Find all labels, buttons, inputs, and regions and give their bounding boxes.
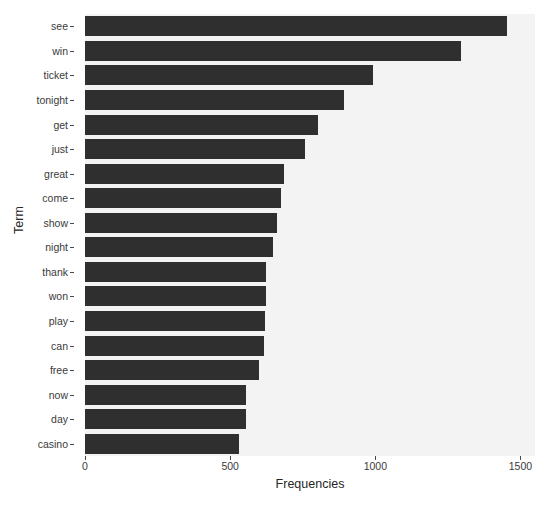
- y-tick-mark: [70, 100, 74, 101]
- y-tick-mark: [70, 346, 74, 347]
- bar: [85, 434, 239, 454]
- y-tick-mark: [70, 444, 74, 445]
- y-tick-label: tonight: [36, 90, 68, 110]
- bar: [85, 16, 507, 36]
- bar-row: [85, 41, 535, 61]
- bar-row: [85, 360, 535, 380]
- y-tick-label: won: [49, 286, 68, 306]
- bar: [85, 90, 344, 110]
- bar-row: [85, 65, 535, 85]
- y-tick-mark: [70, 321, 74, 322]
- y-tick-label: can: [51, 336, 68, 356]
- y-tick-mark: [70, 296, 74, 297]
- bar-chart-figure: seewintickettonightgetjustgreatcomeshown…: [0, 0, 549, 506]
- bar: [85, 164, 284, 184]
- y-tick-mark: [70, 370, 74, 371]
- y-tick-label: see: [51, 16, 68, 36]
- y-tick-label: show: [43, 213, 68, 233]
- bar-row: [85, 434, 535, 454]
- x-tick-label: 500: [200, 460, 260, 472]
- y-tick-label: just: [52, 139, 68, 159]
- y-tick-mark: [70, 419, 74, 420]
- bar-row: [85, 16, 535, 36]
- x-tick-label: 1000: [345, 460, 405, 472]
- y-tick-mark: [70, 223, 74, 224]
- y-tick-label: win: [52, 41, 68, 61]
- y-tick-mark: [70, 272, 74, 273]
- bar-row: [85, 311, 535, 331]
- y-axis-title: Term: [12, 185, 26, 255]
- bar: [85, 336, 264, 356]
- y-tick-label: play: [49, 311, 68, 331]
- bar: [85, 41, 461, 61]
- y-tick-mark: [70, 51, 74, 52]
- x-axis-title: Frequencies: [85, 477, 535, 491]
- y-tick-mark: [70, 174, 74, 175]
- y-tick-mark: [70, 75, 74, 76]
- y-tick-label: now: [49, 385, 68, 405]
- bar-row: [85, 336, 535, 356]
- bar-row: [85, 164, 535, 184]
- bar: [85, 237, 273, 257]
- x-tick-label: 1500: [490, 460, 549, 472]
- bar-row: [85, 385, 535, 405]
- y-tick-mark: [70, 149, 74, 150]
- y-tick-mark: [70, 125, 74, 126]
- bar: [85, 213, 277, 233]
- y-tick-label: free: [50, 360, 68, 380]
- bar: [85, 286, 266, 306]
- bar: [85, 188, 281, 208]
- bar-row: [85, 409, 535, 429]
- y-tick-label: great: [44, 164, 68, 184]
- y-tick-label: night: [45, 237, 68, 257]
- bar-row: [85, 188, 535, 208]
- bar: [85, 262, 266, 282]
- y-tick-label: come: [42, 188, 68, 208]
- bar: [85, 115, 318, 135]
- y-tick-label: thank: [42, 262, 68, 282]
- bar-row: [85, 139, 535, 159]
- bar-row: [85, 237, 535, 257]
- bar-row: [85, 90, 535, 110]
- y-tick-label: ticket: [43, 65, 68, 85]
- bar: [85, 360, 259, 380]
- y-tick-mark: [70, 26, 74, 27]
- bar-row: [85, 213, 535, 233]
- bar: [85, 139, 305, 159]
- x-tick-label: 0: [55, 460, 115, 472]
- y-tick-label: casino: [38, 434, 68, 454]
- y-tick-mark: [70, 247, 74, 248]
- bar: [85, 385, 246, 405]
- y-tick-mark: [70, 198, 74, 199]
- bar-row: [85, 286, 535, 306]
- bar: [85, 65, 373, 85]
- bar: [85, 311, 265, 331]
- bar: [85, 409, 246, 429]
- bar-row: [85, 262, 535, 282]
- y-tick-mark: [70, 395, 74, 396]
- y-tick-label: get: [53, 115, 68, 135]
- y-tick-label: day: [51, 409, 68, 429]
- bar-row: [85, 115, 535, 135]
